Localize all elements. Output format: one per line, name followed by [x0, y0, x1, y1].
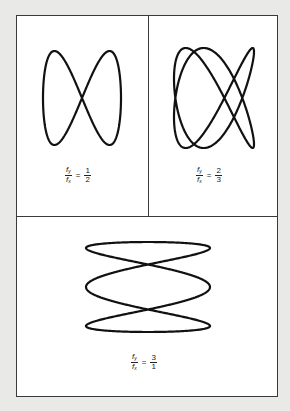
ratio-formula-2-3: fy fx = 2 3: [196, 166, 222, 185]
panel-ratio-1-2: fy fx = 1 2: [17, 16, 148, 216]
ratio-formula-1-2: fy fx = 1 2: [65, 166, 91, 185]
lissajous-figure-frame: fy fx = 1 2 fy fx = 2 3: [16, 15, 278, 397]
ratio-formula-3-1: fy fx = 3 1: [131, 353, 157, 372]
panel-ratio-3-1: fy fx = 3 1: [17, 217, 277, 397]
panel-ratio-2-3: fy fx = 2 3: [148, 16, 279, 216]
lissajous-curve-1-2: [17, 16, 148, 216]
lissajous-curve-2-3: [148, 16, 279, 216]
